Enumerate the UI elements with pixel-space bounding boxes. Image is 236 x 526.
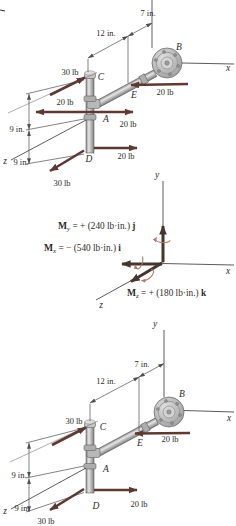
moment-label-z: Mz = + (180 lb·in.) k [127, 287, 207, 300]
force-label-30lb-c: 30 lb [65, 416, 82, 426]
force-label-30lb-d: 30 lb [53, 178, 70, 188]
point-label-d: D [85, 154, 93, 164]
dim-label-12in: 12 in. [96, 376, 115, 386]
pipe-coupling-upper [84, 445, 96, 451]
axis-label-z: z [2, 506, 7, 516]
moment-label-y: My = + (240 lb·in.) j [58, 220, 135, 233]
point-label-a: A [102, 464, 109, 474]
edge-tick [0, 10, 5, 11]
point-label-b: B [176, 42, 182, 52]
force-label-20lb-e: 20 lb [161, 434, 178, 444]
dim-label-9in-lower: 9 in. [14, 503, 29, 513]
pipe-cap-c-top [85, 71, 96, 75]
force-label-20lb-d: 20 lb [117, 151, 134, 161]
moment-label-x: Mx = − (540 lb·in.) i [44, 242, 121, 255]
figure-middle: y x z My = + (240 lb·in.) j Mx = − (540 … [44, 170, 234, 310]
point-label-e: E [130, 90, 137, 100]
diagram-canvas: 7 in. 12 in. B x 30 lb C 20 lb E 20 lb A… [0, 0, 236, 526]
force-label-20lb-e: 20 lb [156, 87, 173, 97]
force-label-20lb-d: 20 lb [130, 499, 147, 509]
dim-label-9in-upper: 9 in. [11, 470, 26, 480]
mechanics-figure-page: 7 in. 12 in. B x 30 lb C 20 lb E 20 lb A… [0, 0, 236, 526]
dim-label-7in: 7 in. [140, 8, 155, 18]
force-arrow-30lb-c [50, 78, 85, 96]
point-label-d: D [92, 501, 100, 511]
force-arrow-30lb-d [50, 489, 84, 510]
dim-label-12in: 12 in. [96, 28, 115, 38]
moment-arrow-z [131, 263, 162, 282]
horizontal-pipe [95, 69, 157, 108]
axis-x-line [184, 411, 234, 413]
axis-x-line [163, 264, 234, 266]
flange-b [152, 48, 182, 78]
point-label-c: C [100, 422, 107, 432]
point-label-c: C [98, 72, 105, 82]
point-label-e: E [136, 438, 143, 448]
axis-label-y: y [152, 319, 158, 329]
force-arrow-20lb-e [131, 84, 188, 85]
force-label-20lb-a-right: 20 lb [119, 119, 136, 129]
force-arrow-30lb-c [52, 428, 86, 446]
pipe-coupling-a [84, 115, 96, 121]
axis-label-x: x [225, 266, 231, 276]
axis-label-z: z [98, 300, 103, 310]
axis-label-z: z [2, 156, 7, 166]
force-label-20lb-a-left: 20 lb [56, 97, 73, 107]
axis-label-x: x [226, 413, 232, 423]
dim-label-7in: 7 in. [134, 359, 149, 369]
axis-label-x: x [225, 63, 231, 73]
point-label-a: A [102, 114, 109, 124]
dim-label-9in-lower: 9 in. [13, 157, 28, 167]
axis-label-y: y [154, 170, 160, 180]
dim-label-9in-upper: 9 in. [9, 124, 24, 134]
force-arrow-30lb-d [50, 151, 84, 172]
force-label-30lb-c: 30 lb [61, 67, 78, 77]
vertical-pipe [86, 425, 94, 493]
pipe-coupling-upper [84, 96, 96, 102]
figure-top: 7 in. 12 in. B x 30 lb C 20 lb E 20 lb A… [0, 0, 234, 188]
point-label-b: B [179, 389, 185, 399]
force-label-30lb-d: 30 lb [37, 516, 54, 526]
flange-b [154, 397, 184, 427]
figure-bottom: y 7 in. 12 in. B x 30 lb C 20 lb E A 9 i… [2, 319, 234, 526]
